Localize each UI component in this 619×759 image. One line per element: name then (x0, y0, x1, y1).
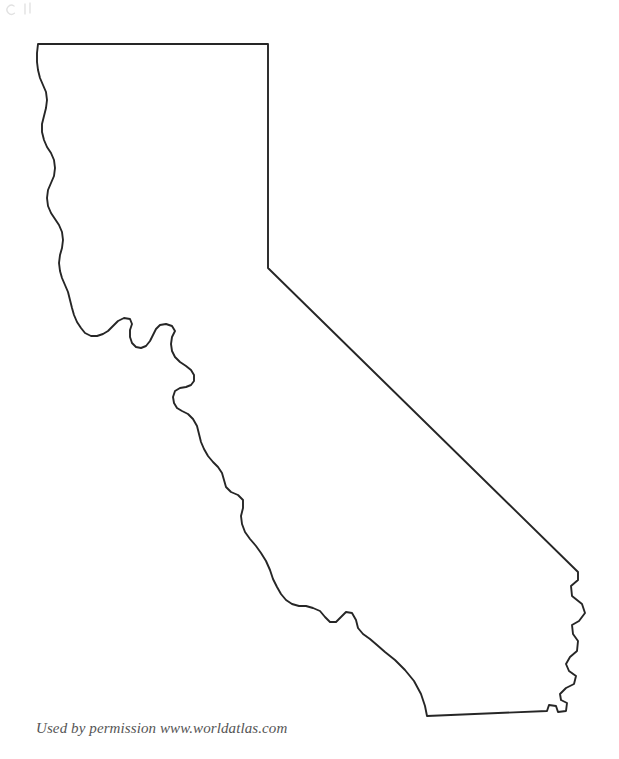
california-state-outline (37, 44, 585, 716)
scan-artifact (7, 3, 30, 14)
map-svg-canvas (0, 0, 619, 759)
california-outline-map (0, 0, 619, 759)
attribution-text: Used by permission www.worldatlas.com (36, 719, 287, 737)
